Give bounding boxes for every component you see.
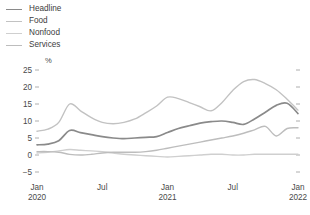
series-lines <box>37 79 298 157</box>
x-tick-label-top: Jan <box>30 183 44 192</box>
x-tick-label-bottom: 2020 <box>28 193 47 202</box>
series-line-nonfood <box>37 150 298 157</box>
x-tick-label-top: Jul <box>97 183 108 192</box>
x-tick-label-top: Jul <box>228 183 239 192</box>
y-tick-label: 0 <box>27 151 32 160</box>
y-tick-label: 15 <box>23 100 33 109</box>
x-tick-label-bottom: 2022 <box>289 193 308 202</box>
y-tick-label: −5 <box>23 168 33 177</box>
x-axis-ticks: Jan2020JulJan2021JulJan2022 <box>28 183 308 202</box>
y-tick-label: 20 <box>23 83 33 92</box>
x-tick-label-top: Jan <box>291 183 305 192</box>
x-tick-label-bottom: 2021 <box>158 193 177 202</box>
series-line-food <box>37 79 298 131</box>
plot-area: % 2520151050−5 Jan2020JulJan2021JulJan20… <box>0 0 310 215</box>
y-tick-label: 10 <box>23 117 33 126</box>
y-axis-unit-label: % <box>45 56 52 65</box>
inflation-line-chart: Headline Food Nonfood Services % 2520151… <box>0 0 310 215</box>
y-tick-label: 5 <box>27 134 32 143</box>
y-axis-ticks: 2520151050−5 <box>23 66 39 177</box>
right-axis-ticks <box>296 70 300 172</box>
series-line-headline <box>37 103 298 145</box>
y-tick-label: 25 <box>23 66 33 75</box>
x-tick-label-top: Jan <box>161 183 175 192</box>
